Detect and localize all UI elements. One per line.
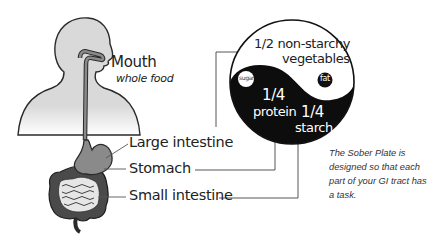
- plate-starch-fraction: 1/4: [301, 105, 324, 121]
- plate-protein-label: protein: [253, 105, 296, 119]
- plate-sugar-label: sugar: [239, 75, 254, 81]
- plate-vegetables-label: vegetables: [282, 52, 350, 66]
- label-mouth: Mouth: [111, 53, 157, 71]
- plate-starch-label: starch: [295, 121, 333, 135]
- sober-plate-diagram: Mouth whole food Large intestine Stomach…: [0, 0, 431, 237]
- label-mouth-sub: whole food: [116, 72, 173, 85]
- caption-text: The Sober Plate is designed so that each…: [329, 146, 429, 202]
- plate-fat-label: fat: [320, 75, 330, 83]
- plate-protein-fraction: 1/4: [262, 88, 285, 104]
- label-stomach: Stomach: [129, 160, 191, 176]
- label-large-intestine: Large intestine: [129, 134, 233, 150]
- small-intestine-icon: [59, 177, 100, 212]
- label-small-intestine: Small intestine: [129, 187, 233, 203]
- plate-vegetables-fraction: 1/2 non-starchy: [254, 37, 350, 51]
